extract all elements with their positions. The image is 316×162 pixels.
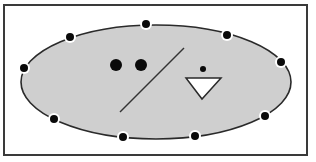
boundary-point-7 — [191, 132, 199, 140]
large-dot-2 — [135, 59, 147, 71]
boundary-point-6 — [261, 112, 269, 120]
boundary-point-5 — [277, 58, 285, 66]
diagram-canvas — [0, 0, 316, 162]
small-dot — [200, 66, 206, 72]
diagram-svg — [0, 0, 316, 162]
boundary-point-3 — [142, 20, 150, 28]
boundary-point-2 — [66, 33, 74, 41]
boundary-point-4 — [223, 31, 231, 39]
boundary-point-9 — [50, 115, 58, 123]
elliptical-region — [21, 25, 291, 139]
boundary-point-1 — [20, 64, 28, 72]
boundary-point-8 — [119, 133, 127, 141]
large-dot-1 — [110, 59, 122, 71]
